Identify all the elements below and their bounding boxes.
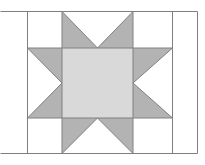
center-square (62, 48, 133, 118)
quilt-block-diagram (0, 0, 205, 165)
quilt-block-figure (0, 0, 205, 165)
